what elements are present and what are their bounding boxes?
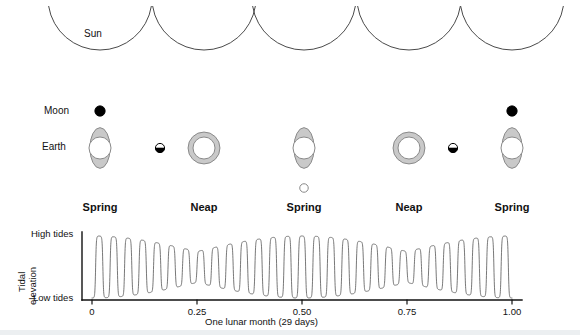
xaxis-title: One lunar month (29 days) — [205, 316, 318, 327]
tide-diagram: Sun Moon Earth SpringNeapSpringNeapSprin… — [0, 0, 580, 335]
bottom-strip — [0, 330, 580, 335]
xtick-label-0: 0 — [72, 306, 112, 317]
tide-waveform — [92, 236, 512, 298]
chart-axes — [82, 232, 522, 304]
tidal-elevation-chart — [0, 0, 580, 335]
yaxis-title-line1: Tidal — [16, 272, 27, 292]
ytick-low-tides: Low tides — [33, 292, 73, 303]
xtick-label-3: 0.75 — [387, 306, 427, 317]
xtick-label-4: 1.00 — [492, 306, 532, 317]
ytick-high-tides: High tides — [31, 228, 73, 239]
yaxis-title-line2: elevation — [27, 267, 38, 305]
